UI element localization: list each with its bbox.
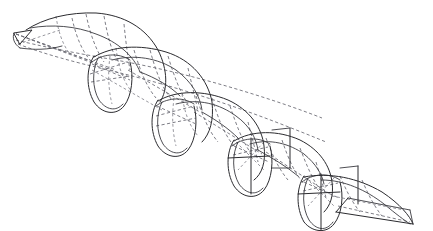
hidden-meridian-4b: [282, 140, 304, 184]
strut-whorl-3-top: [272, 128, 290, 130]
hidden-bulb2-chord-3: [156, 118, 196, 126]
hidden-meridian-1c: [104, 16, 120, 64]
whorl-3-bulb: [228, 140, 272, 196]
body-contour-1: [140, 72, 180, 96]
hidden-spiral-lower-sweep-2: [18, 44, 326, 142]
whorl-1-bulb: [88, 56, 132, 112]
hidden-aperture-base-dashed-2: [332, 196, 404, 210]
whorl-4-bulb-inner: [304, 178, 333, 229]
hidden-spiral-lower-sweep: [16, 40, 322, 118]
whorl-3-inner-contour: [176, 102, 258, 150]
strut-whorl-4-top: [340, 166, 358, 168]
hidden-bulb2-chord-2: [157, 106, 196, 124]
whorl-1-bulb-inner: [94, 58, 123, 109]
whorl-4-bulb: [298, 176, 342, 231]
hidden-meridian-2d: [188, 68, 198, 112]
hidden-aperture-meridian-1: [340, 176, 360, 212]
whorl-4-outer-arc: [234, 133, 333, 212]
solid-edge-group: [13, 13, 413, 231]
aperture-base-right: [410, 210, 413, 224]
hidden-edge-group: [16, 14, 410, 222]
hidden-meridian-4c: [300, 148, 320, 190]
aperture-inner-arc: [322, 180, 410, 224]
hidden-apex-chord-2: [16, 34, 116, 70]
spiral-shell-wireframe: [0, 0, 433, 231]
shell-figure: Wireframe line drawing of a helico-spira…: [0, 0, 433, 231]
hidden-meridian-1e: [56, 16, 70, 54]
hidden-connector-1: [128, 70, 200, 112]
whorl-1-bulb-rim: [92, 55, 130, 62]
hidden-meridian-2c: [168, 56, 188, 104]
hidden-aperture-meridian-2: [362, 180, 382, 216]
whorl-2-bulb: [152, 100, 196, 156]
